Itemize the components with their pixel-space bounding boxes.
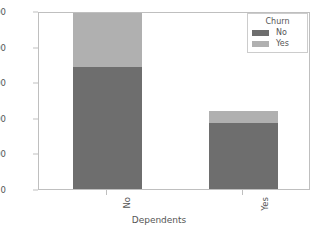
- bar-segment-yes[interactable]: [73, 13, 142, 67]
- y-tick-label: 4000: [0, 43, 6, 53]
- chart-figure: 010002000300040005000 NoYes Dependents C…: [0, 0, 318, 235]
- y-tick-label: 5000: [0, 7, 6, 17]
- x-axis-label: Dependents: [0, 215, 318, 225]
- y-tick-label: 3000: [0, 78, 6, 88]
- legend-item[interactable]: No: [252, 28, 303, 37]
- x-tick-label: Yes: [260, 197, 270, 211]
- legend: Churn NoYes: [247, 13, 308, 53]
- x-tick-mark: [242, 190, 243, 195]
- bar-stack[interactable]: [209, 111, 278, 189]
- x-tick-label: No: [122, 197, 132, 209]
- legend-swatch-icon: [252, 30, 269, 36]
- legend-label: No: [276, 28, 287, 37]
- bar-segment-yes[interactable]: [209, 111, 278, 123]
- y-tick-label: 2000: [0, 114, 6, 124]
- bar-segment-no[interactable]: [209, 123, 278, 189]
- legend-swatch-icon: [252, 41, 269, 47]
- legend-title: Churn: [252, 17, 303, 26]
- x-tick-mark: [106, 190, 107, 195]
- legend-item[interactable]: Yes: [252, 39, 303, 48]
- legend-entries: NoYes: [252, 28, 303, 48]
- legend-label: Yes: [276, 39, 289, 48]
- y-tick-label: 1000: [0, 149, 6, 159]
- bar-segment-no[interactable]: [73, 67, 142, 189]
- bar-stack[interactable]: [73, 13, 142, 189]
- y-tick-label: 0: [0, 185, 6, 195]
